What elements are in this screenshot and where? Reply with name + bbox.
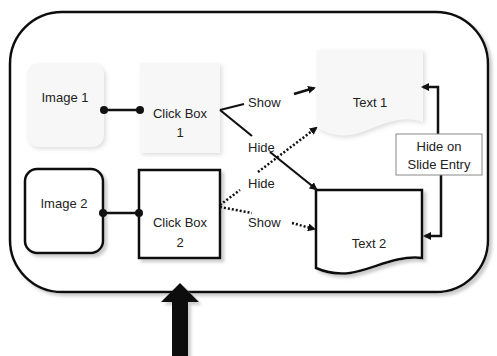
- diagram-canvas: Image 1 Click Box 1 Text 1 Image 2 Click…: [0, 0, 497, 356]
- text-2-label: Text 2: [352, 236, 387, 251]
- edge-label-hide-1: Hide: [248, 140, 275, 155]
- click-box-1-label-line1: Click Box: [153, 106, 208, 121]
- image-2-label: Image 2: [41, 196, 88, 211]
- click-box-2-label-line2: 2: [176, 235, 183, 250]
- image-2-node: Image 2: [25, 169, 103, 253]
- image-1-node: Image 1: [27, 63, 104, 147]
- click-box-1-node: Click Box 1: [140, 63, 220, 153]
- edge-label-show-1: Show: [248, 95, 281, 110]
- up-arrow-icon: [161, 283, 199, 356]
- click-box-2-label-line1: Click Box: [153, 215, 208, 230]
- edge-label-hide-2: Hide: [248, 176, 275, 191]
- click-box-1-label-line2: 1: [176, 125, 183, 140]
- edge-label-show-2: Show: [248, 215, 281, 230]
- click-box-2-node: Click Box 2: [139, 170, 220, 258]
- image-1-label: Image 1: [42, 90, 89, 105]
- hide-on-entry-line2: Slide Entry: [408, 157, 471, 172]
- hide-on-entry-line1: Hide on: [417, 139, 462, 154]
- text-1-label: Text 1: [353, 95, 388, 110]
